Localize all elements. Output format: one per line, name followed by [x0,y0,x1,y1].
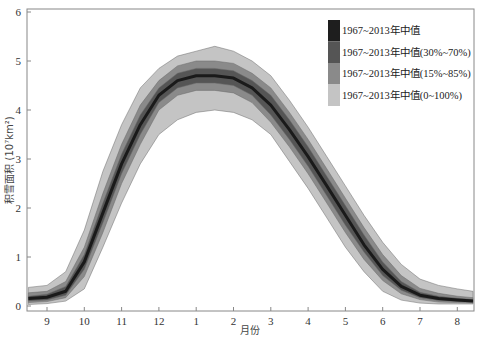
x-tick-label: 6 [380,315,386,327]
y-axis: 0123456 [16,6,32,312]
x-axis: 910111212345678 [44,307,460,327]
legend: 1967~2013年中值1967~2013年中值(30%~70%)1967~20… [328,20,471,106]
y-tick-label: 4 [16,104,22,116]
x-axis-title: 月份 [240,325,260,336]
legend-label: 1967~2013年中值(15%~85%) [342,67,471,80]
x-tick-label: 1 [193,315,199,327]
legend-label: 1967~2013年中值(0~100%) [342,89,463,102]
x-tick-label: 10 [79,315,91,327]
legend-swatch [328,85,340,107]
x-tick-label: 5 [343,315,349,327]
legend-swatch [328,20,340,42]
x-tick-label: 7 [417,315,423,327]
percentile-bands [28,46,473,304]
legend-swatch [328,63,340,85]
y-axis-title: 积雪面积 (10⁷km²) [4,116,15,203]
x-tick-label: 12 [153,315,164,327]
y-tick-label: 1 [16,251,22,263]
x-tick-label: 2 [231,315,237,327]
y-tick-label: 5 [16,55,22,67]
x-tick-label: 3 [268,315,274,327]
legend-swatch [328,42,340,64]
y-tick-label: 6 [16,6,22,18]
x-tick-label: 8 [455,315,461,327]
y-tick-label: 2 [16,202,22,214]
x-tick-label: 4 [305,315,311,327]
y-tick-label: 0 [16,300,22,312]
y-tick-label: 3 [16,153,22,165]
x-tick-label: 9 [44,315,50,327]
legend-label: 1967~2013年中值(30%~70%) [342,46,471,59]
x-tick-label: 11 [116,315,127,327]
legend-label: 1967~2013年中值 [342,24,421,36]
snow-cover-chart: 0123456 910111212345678 月份 积雪面积 (10⁷km²)… [0,0,481,343]
